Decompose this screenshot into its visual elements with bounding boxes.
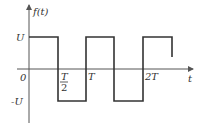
origin-label: 0	[20, 72, 27, 83]
y-axis-label: f(t)	[32, 6, 49, 17]
period-label: T	[88, 71, 96, 82]
x-axis-label: t	[188, 73, 193, 84]
half-period-denominator: 2	[61, 82, 67, 93]
half-period-numerator: T	[61, 71, 69, 82]
square-wave-diagram: f(t) t U -U 0 T 2 T 2T	[0, 0, 204, 133]
low-level-label: -U	[11, 96, 23, 107]
high-level-label: U	[16, 32, 25, 43]
two-period-label: 2T	[144, 71, 159, 82]
